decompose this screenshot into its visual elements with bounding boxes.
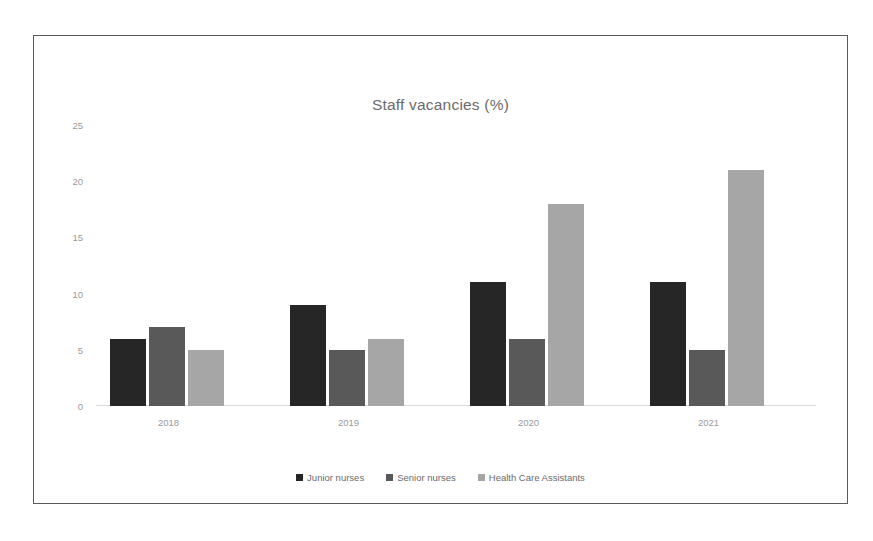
bar-group-2020: 2020: [456, 125, 636, 406]
chart-legend: Junior nursesSenior nursesHealth Care As…: [34, 472, 847, 483]
y-axis-tick-label: 10: [72, 288, 83, 299]
chart-page: Staff vacancies (%) 2520151050 201820192…: [0, 0, 873, 541]
x-axis-tick-label: 2018: [96, 417, 276, 428]
bar-group-2021: 2021: [636, 125, 816, 406]
legend-swatch-icon: [386, 474, 393, 481]
legend-swatch-icon: [296, 474, 303, 481]
x-axis-tick-label: 2020: [456, 417, 636, 428]
bars: [636, 125, 816, 406]
x-axis-tick-label-text: 2020: [470, 417, 587, 428]
bar-group-2019: 2019: [276, 125, 456, 406]
bars: [456, 125, 636, 406]
legend-item-health-care-assistants[interactable]: Health Care Assistants: [478, 472, 585, 483]
bar-health-care-assistants-2021[interactable]: [728, 170, 764, 406]
x-axis-tick-label-text: 2021: [650, 417, 767, 428]
y-axis-tick-label: 0: [78, 401, 83, 412]
bar-senior-nurses-2021[interactable]: [689, 350, 725, 406]
y-axis-tick-label: 20: [72, 176, 83, 187]
legend-item-label: Junior nurses: [307, 472, 364, 483]
x-axis-tick-label: 2019: [276, 417, 456, 428]
legend-swatch-icon: [478, 474, 485, 481]
bar-junior-nurses-2019[interactable]: [290, 305, 326, 406]
bar-senior-nurses-2019[interactable]: [329, 350, 365, 406]
y-axis-tick-label: 5: [78, 344, 83, 355]
x-axis-tick-label-text: 2019: [290, 417, 407, 428]
bar-health-care-assistants-2020[interactable]: [548, 204, 584, 406]
bar-health-care-assistants-2019[interactable]: [368, 339, 404, 406]
plot-area: 2520151050 2018201920202021: [96, 125, 816, 406]
chart-frame: Staff vacancies (%) 2520151050 201820192…: [33, 35, 848, 504]
bars: [276, 125, 456, 406]
legend-item-junior-nurses[interactable]: Junior nurses: [296, 472, 364, 483]
bar-junior-nurses-2021[interactable]: [650, 282, 686, 406]
bar-senior-nurses-2018[interactable]: [149, 327, 185, 406]
bar-junior-nurses-2020[interactable]: [470, 282, 506, 406]
y-axis-tick-label: 15: [72, 232, 83, 243]
bar-group-2018: 2018: [96, 125, 276, 406]
x-axis-tick-label: 2021: [636, 417, 816, 428]
bar-junior-nurses-2018[interactable]: [110, 339, 146, 406]
bar-groups: 2018201920202021: [96, 125, 816, 406]
x-axis-tick-label-text: 2018: [110, 417, 227, 428]
legend-item-label: Health Care Assistants: [489, 472, 585, 483]
legend-item-senior-nurses[interactable]: Senior nurses: [386, 472, 456, 483]
bar-health-care-assistants-2018[interactable]: [188, 350, 224, 406]
legend-item-label: Senior nurses: [397, 472, 456, 483]
bars: [96, 125, 276, 406]
bar-senior-nurses-2020[interactable]: [509, 339, 545, 406]
chart-title: Staff vacancies (%): [34, 96, 847, 114]
y-axis-tick-label: 25: [72, 120, 83, 131]
